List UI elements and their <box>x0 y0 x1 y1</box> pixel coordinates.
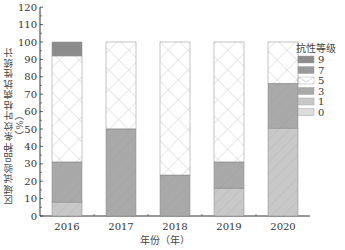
legend-label: 5 <box>318 75 324 86</box>
legend-swatch <box>298 109 314 116</box>
x-tick-label: 2016 <box>54 221 79 232</box>
bar-segment-level-9 <box>52 42 82 56</box>
bar-segment-level-5 <box>268 42 298 84</box>
y-tick-label: 110 <box>18 19 37 30</box>
bar-2016 <box>52 42 82 216</box>
y-tick-label: 90 <box>24 54 37 65</box>
y-tick-label: 40 <box>24 141 37 152</box>
x-tick-label: 2019 <box>216 221 241 232</box>
y-axis-label: 区域试验品种条纹叶枯病抗性统计（%） <box>3 40 17 210</box>
x-tick-label: 2018 <box>162 221 187 232</box>
legend: 975310 <box>298 54 324 118</box>
legend-swatch <box>298 56 314 63</box>
y-tick-label: 80 <box>24 71 37 82</box>
legend-label: 9 <box>318 54 324 65</box>
bar-2019 <box>214 42 244 216</box>
legend-swatch <box>298 88 314 95</box>
y-tick-label: 70 <box>24 89 37 100</box>
y-tick-label: 30 <box>24 158 37 169</box>
y-tick-label: 0 <box>31 211 37 222</box>
x-tick-label: 2017 <box>108 221 133 232</box>
legend-item-7: 7 <box>298 65 324 76</box>
y-tick-label: 10 <box>24 193 37 204</box>
legend-item-5: 5 <box>298 75 324 86</box>
bar-2020 <box>268 42 298 216</box>
legend-swatch <box>298 77 314 84</box>
legend-title: 抗性等级 <box>296 40 336 55</box>
y-tick-label: 100 <box>18 37 37 48</box>
legend-item-0: 0 <box>298 107 324 118</box>
bar-2018 <box>160 42 190 216</box>
x-tick-label: 2020 <box>270 221 295 232</box>
bars <box>52 42 298 216</box>
y-tick-label: 50 <box>24 124 37 135</box>
legend-item-1: 1 <box>298 96 324 107</box>
y-tick-label: 60 <box>24 106 37 117</box>
legend-item-9: 9 <box>298 54 324 65</box>
legend-label: 1 <box>318 96 324 107</box>
legend-swatch <box>298 67 314 74</box>
bar-segment-level-5 <box>214 42 244 162</box>
stacked-bar-chart: 0102030405060708090100110120201620172018… <box>0 0 345 250</box>
legend-label: 0 <box>318 107 324 118</box>
bar-segment-level-5 <box>160 42 190 175</box>
bar-segment-level-5 <box>52 56 82 162</box>
legend-swatch <box>298 98 314 105</box>
legend-label: 7 <box>318 65 324 76</box>
legend-item-3: 3 <box>298 86 324 97</box>
bar-2017 <box>106 42 136 216</box>
y-tick-label: 120 <box>18 2 37 13</box>
y-tick-label: 20 <box>24 176 37 187</box>
legend-label: 3 <box>318 86 324 97</box>
x-axis-label: 年份（年） <box>140 232 190 247</box>
bar-segment-level-5 <box>106 42 136 129</box>
